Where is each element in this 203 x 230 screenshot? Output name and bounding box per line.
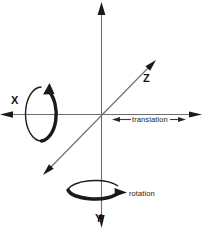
y-axis-arrowhead-top bbox=[98, 2, 106, 15]
x-axis-arrowhead-left bbox=[0, 111, 13, 117]
rotation-x-arrowhead bbox=[43, 83, 55, 95]
rotation-y-ellipse-back bbox=[68, 181, 118, 190]
rotation-x-ellipse-front bbox=[42, 91, 57, 141]
rotation-label: rotation bbox=[129, 189, 155, 198]
rotation-about-y-indicator bbox=[68, 181, 127, 199]
diagram-canvas: X Y Z translation rotation bbox=[0, 0, 203, 230]
rotation-about-x-indicator bbox=[26, 83, 57, 141]
y-axis-label: Y bbox=[95, 212, 103, 224]
translation-arrowhead-right bbox=[178, 117, 186, 122]
x-axis-label: X bbox=[11, 94, 19, 106]
z-axis-label: Z bbox=[143, 72, 150, 84]
rotation-y-ellipse-front bbox=[68, 190, 117, 199]
axes-diagram: X Y Z translation rotation bbox=[0, 0, 203, 230]
x-axis-arrowhead-right bbox=[189, 112, 202, 118]
translation-label: translation bbox=[132, 115, 168, 124]
rotation-y-arrowhead bbox=[115, 188, 128, 197]
translation-arrowhead-left bbox=[112, 117, 120, 122]
